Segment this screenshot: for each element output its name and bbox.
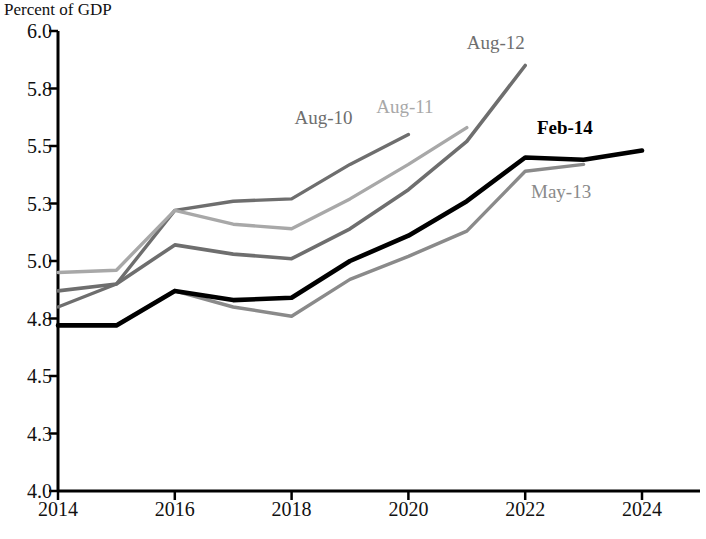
y-axis-tick-label: 5.5 <box>6 136 52 156</box>
y-axis-tick-label: 5.0 <box>6 251 52 271</box>
x-axis-tick-label: 2014 <box>18 498 98 520</box>
series-label-may-13: May-13 <box>531 182 591 202</box>
series-line-aug-10 <box>58 135 408 308</box>
y-axis-tick-label: 4.5 <box>6 366 52 386</box>
x-axis-tick-label: 2018 <box>252 498 332 520</box>
series-label-aug-10: Aug-10 <box>295 108 353 128</box>
series-label-feb-14: Feb-14 <box>537 118 593 138</box>
y-axis-tick-label: 4.8 <box>6 309 52 329</box>
y-axis-tick-label: 4.3 <box>6 424 52 444</box>
chart-plot-area <box>0 0 706 539</box>
y-axis-tick-label: 5.3 <box>6 194 52 214</box>
y-axis-tick-label: 6.0 <box>6 21 52 41</box>
x-axis-tick-label: 2024 <box>602 498 682 520</box>
x-axis-tick-label: 2020 <box>368 498 448 520</box>
x-axis-tick-label: 2016 <box>135 498 215 520</box>
x-axis-tick-label: 2022 <box>485 498 565 520</box>
series-label-aug-11: Aug-11 <box>376 97 433 117</box>
series-label-aug-12: Aug-12 <box>467 33 525 53</box>
chart-container: Percent of GDP 6.05.85.55.35.04.84.54.34… <box>0 0 706 539</box>
y-axis-tick-label: 5.8 <box>6 79 52 99</box>
